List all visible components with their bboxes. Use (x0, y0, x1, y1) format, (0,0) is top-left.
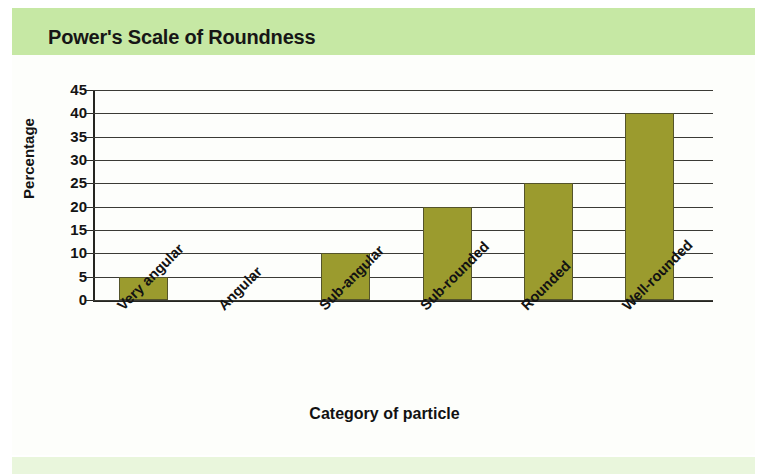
figure-bottom-strip (12, 457, 755, 474)
plot-area (93, 90, 700, 300)
x-axis-title: Category of particle (0, 405, 769, 423)
grid-line (93, 253, 713, 254)
y-axis-tick-labels: 454035302520151050 (47, 90, 87, 300)
figure-header-band: Power's Scale of Roundness (12, 8, 755, 55)
grid-line (93, 277, 713, 278)
grid-line (93, 183, 713, 184)
y-axis-tick-label: 45 (70, 82, 87, 97)
y-axis-tick (86, 230, 93, 231)
y-axis-tick-label: 30 (70, 152, 87, 167)
grid-line (93, 113, 713, 114)
y-axis-tick (86, 113, 93, 114)
grid-line (93, 230, 713, 231)
grid-line (93, 90, 713, 91)
x-axis-tick-labels: Very angularAngularSub-angularSub-rounde… (93, 302, 733, 402)
y-axis-line (93, 90, 95, 300)
y-axis-tick-label: 20 (70, 199, 87, 214)
y-axis-tick (86, 300, 93, 301)
figure-page: Power's Scale of Roundness Percentage 45… (0, 0, 769, 474)
y-axis-tick (86, 183, 93, 184)
grid-line (93, 207, 713, 208)
y-axis-tick-label: 25 (70, 175, 87, 190)
y-axis-tick-label: 10 (70, 245, 87, 260)
grid-line (93, 160, 713, 161)
y-axis-tick (86, 253, 93, 254)
y-axis-tick-label: 40 (70, 105, 87, 120)
grid-line (93, 137, 713, 138)
y-axis-tick (86, 207, 93, 208)
y-axis-tick (86, 90, 93, 91)
y-axis-tick (86, 160, 93, 161)
y-axis-title: Percentage (20, 118, 37, 199)
figure-title: Power's Scale of Roundness (48, 26, 315, 49)
y-axis-tick-label: 35 (70, 129, 87, 144)
y-axis-tick (86, 277, 93, 278)
y-axis-tick-label: 15 (70, 222, 87, 237)
y-axis-tick (86, 137, 93, 138)
